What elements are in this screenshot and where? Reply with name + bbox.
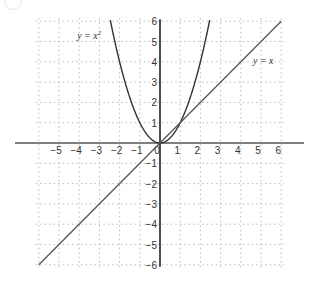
- x-tick-label: −4: [70, 145, 82, 156]
- x-tick-label: 4: [235, 145, 241, 156]
- y-tick-label: −3: [146, 199, 158, 210]
- y-tick-label: 5: [151, 37, 157, 48]
- x-tick-label: 6: [275, 145, 281, 156]
- line-label: y = x: [252, 55, 274, 66]
- y-tick-label: −5: [146, 240, 158, 251]
- x-tick-label: 2: [195, 145, 201, 156]
- y-tick-label: 1: [151, 118, 157, 129]
- parabola-label: y = x2: [76, 29, 102, 41]
- x-tick-label: 3: [215, 145, 221, 156]
- y-tick-label: 4: [151, 57, 157, 68]
- y-tick-label: −6: [146, 260, 158, 271]
- y-tick-label: 3: [151, 77, 157, 88]
- x-tick-label: −2: [111, 145, 123, 156]
- y-tick-label: 2: [151, 97, 157, 108]
- y-tick-label: −1: [146, 158, 158, 169]
- curve-labels: y = x2y = x: [76, 29, 274, 65]
- y-tick-label: −4: [146, 219, 158, 230]
- exponent: 2: [98, 29, 102, 37]
- x-tick-label: −5: [50, 145, 62, 156]
- y-tick-label: 6: [151, 16, 157, 27]
- y-tick-label: −2: [146, 179, 158, 190]
- graph: −5−4−3−2−10123456 −6−5−4−3−2−1123456 y =…: [0, 0, 321, 281]
- x-tick-label: 1: [174, 145, 180, 156]
- x-tick-labels: −5−4−3−2−10123456: [50, 145, 281, 156]
- x-tick-label: 5: [255, 145, 261, 156]
- x-tick-label: −3: [91, 145, 103, 156]
- x-tick-label: −1: [131, 145, 143, 156]
